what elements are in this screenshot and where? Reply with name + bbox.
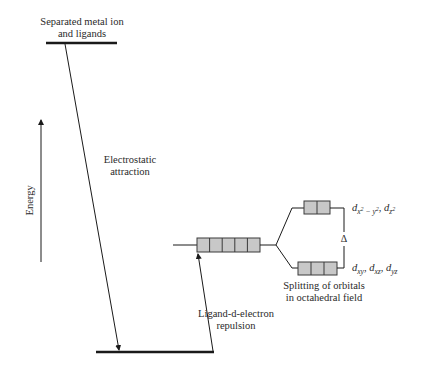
separated-ion-label-line2: and ligands [26,28,138,40]
delta-symbol: Δ [339,233,349,245]
electrostatic-label-line2: attraction [96,166,164,178]
splitting-fork [260,208,304,268]
splitting-label: Splitting of orbitals in octahedral fiel… [274,280,374,304]
t2g-orbitals [298,262,337,275]
repulsion-label: Ligand-d-electron repulsion [194,308,278,332]
splitting-label-line2: in octahedral field [274,292,374,304]
separated-ion-label-line1: Separated metal ion [26,16,138,28]
splitting-label-line1: Splitting of orbitals [274,280,374,292]
repulsion-arrow [198,254,213,351]
repulsion-label-line1: Ligand-d-electron [194,308,278,320]
eg-orbitals [304,201,330,214]
degenerate-d-orbitals [197,238,260,252]
t2g-orbital-label: dxy, dxz, dyz dxy, dxz, dyz [352,262,397,276]
repulsion-label-line2: repulsion [194,320,278,332]
eg-orbital-label: dx²−y², dz² dx2 − y2, dz2 [352,202,395,216]
energy-axis-label: Energy [24,182,35,216]
electrostatic-attraction-arrow [65,44,119,350]
electrostatic-label-line1: Electrostatic [96,154,164,166]
electrostatic-attraction-label: Electrostatic attraction [96,154,164,178]
separated-ion-label: Separated metal ion and ligands [26,16,138,40]
